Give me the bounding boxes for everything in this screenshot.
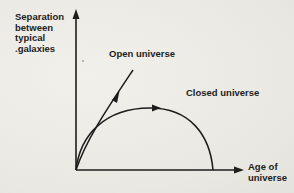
closed-universe-curve [76, 105, 213, 171]
x-axis-label: Age of universe [248, 162, 287, 183]
x-axis [76, 167, 244, 174]
y-axis-arrow-icon [73, 9, 80, 19]
y-axis-label: Separation between typical .galaxies [15, 12, 64, 54]
closed-curve-arrow-icon [152, 105, 161, 112]
open-universe-label: Open universe [109, 49, 175, 60]
x-axis-arrow-icon [234, 167, 244, 174]
closed-universe-label: Closed universe [186, 88, 259, 99]
y-axis [73, 9, 80, 170]
speck [82, 60, 83, 61]
